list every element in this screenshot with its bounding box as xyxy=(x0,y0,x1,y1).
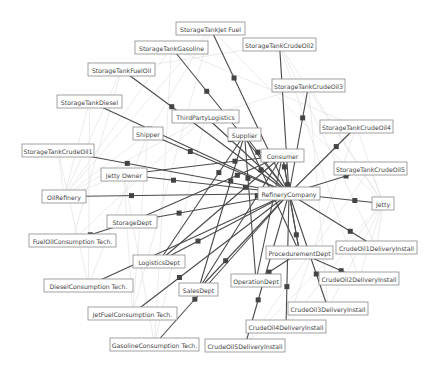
node-label: LogisticsDept xyxy=(138,259,180,267)
edge-line xyxy=(89,194,290,286)
background-edge-jetty-crude-oil3-delivery-install xyxy=(328,204,383,309)
edge-marker-icon xyxy=(352,198,357,203)
edge-marker-icon xyxy=(348,229,353,234)
edge-marker-icon xyxy=(177,211,182,216)
node-label: CrudeOil2DeliveryInstall xyxy=(321,276,396,284)
edge-marker-icon xyxy=(129,193,134,198)
background-edge-storage-tank-crude-oil1-diesel-consumption-tech xyxy=(58,151,89,286)
edge-marker-icon xyxy=(255,150,260,155)
node-label: CrudeOil1DeliveryInstall xyxy=(339,245,414,253)
node-label: Consumer xyxy=(267,153,299,160)
edge-marker-icon xyxy=(284,284,289,289)
node-storage-tank-jet-fuel[interactable]: StorageTankJet Fuel xyxy=(176,22,245,35)
edge-marker-icon xyxy=(259,167,264,172)
node-diesel-consumption-tech[interactable]: DieselConsumption Tech. xyxy=(44,279,133,292)
background-edge-storage-tank-gasoline-gasoline-consumption-tech xyxy=(155,48,172,345)
node-jet-fuel-consumption-tech[interactable]: JetFuelConsumption Tech. xyxy=(88,307,177,320)
node-label: ProcedurementDept xyxy=(268,250,331,258)
edge-marker-icon xyxy=(235,173,240,178)
node-oil-refinery[interactable]: OilRefinery xyxy=(42,190,86,203)
node-logistics-dept[interactable]: LogisticsDept xyxy=(133,255,185,268)
node-label: StorageTankJet Fuel xyxy=(180,26,241,34)
node-consumer[interactable]: Consumer xyxy=(261,149,304,162)
edge-marker-icon xyxy=(196,239,201,244)
node-label: ThirdPartyLogistics xyxy=(175,114,234,122)
node-crude-oil1-delivery-install[interactable]: CrudeOil1DeliveryInstall xyxy=(336,241,417,254)
node-storage-tank-crude-oil2[interactable]: StorageTankCrudeOil2 xyxy=(243,38,316,51)
node-third-party-logistics[interactable]: ThirdPartyLogistics xyxy=(172,110,239,123)
node-label: Jetty xyxy=(375,201,390,209)
node-crude-oil3-delivery-install[interactable]: CrudeOil3DeliveryInstall xyxy=(288,302,368,315)
node-label: OperationDept xyxy=(233,278,279,286)
network-diagram: RefineryCompanyConsumerSupplierThirdPart… xyxy=(0,0,434,372)
edge-marker-icon xyxy=(171,178,176,183)
edge-marker-icon xyxy=(245,176,250,181)
edge-marker-icon xyxy=(125,161,130,166)
node-label: FuelOilConsumption Tech. xyxy=(33,238,113,246)
edge-diesel-consumption-tech-refinery-company xyxy=(89,194,290,286)
edge-marker-icon xyxy=(243,185,248,190)
node-label: Shipper xyxy=(136,131,160,139)
edge-marker-icon xyxy=(256,297,261,302)
node-sales-dept[interactable]: SalesDept xyxy=(179,283,218,296)
node-crude-oil5-delivery-install[interactable]: CrudeOil5DeliveryInstall xyxy=(205,339,285,352)
node-label: StorageTankGasoline xyxy=(139,45,204,53)
node-label: JetFuelConsumption Tech. xyxy=(92,311,173,319)
edge-marker-icon xyxy=(188,149,193,154)
edge-supplier-refinery-company xyxy=(245,135,290,194)
node-supplier[interactable]: Supplier xyxy=(228,128,261,141)
node-storage-tank-crude-oil4[interactable]: StorageTankCrudeOil4 xyxy=(320,120,393,133)
node-label: StorageTankCrudeOil5 xyxy=(336,166,405,174)
node-label: CrudeOil3DeliveryInstall xyxy=(290,306,365,314)
node-storage-tank-crude-oil5[interactable]: StorageTankCrudeOil5 xyxy=(334,162,407,175)
edge-marker-icon xyxy=(232,159,237,164)
node-label: CrudeOil4DeliveryInstall xyxy=(248,324,323,332)
edge-storage-tank-crude-oil2-refinery-company xyxy=(280,45,290,194)
node-label: StorageDept xyxy=(112,219,152,227)
background-edge-jetty-storage-tank-crude-oil3 xyxy=(309,86,384,204)
node-shipper[interactable]: Shipper xyxy=(133,127,163,140)
node-label: Jetty Owner xyxy=(105,172,143,180)
edge-marker-icon xyxy=(204,89,209,94)
node-crude-oil4-delivery-install[interactable]: CrudeOil4DeliveryInstall xyxy=(246,320,326,333)
node-label: StorageTankCrudeOil1 xyxy=(23,148,92,156)
node-refinery-company[interactable]: RefineryCompany xyxy=(258,187,320,200)
edge-marker-icon xyxy=(334,144,339,149)
node-jetty-owner[interactable]: Jetty Owner xyxy=(101,168,147,181)
edge-marker-icon xyxy=(177,275,182,280)
node-fuel-oil-consumption-tech[interactable]: FuelOilConsumption Tech. xyxy=(29,234,116,247)
edge-marker-icon xyxy=(216,170,221,175)
node-label: Supplier xyxy=(232,132,258,140)
node-storage-tank-crude-oil1[interactable]: StorageTankCrudeOil1 xyxy=(22,144,94,157)
node-label: StorageTankCrudeOil2 xyxy=(245,42,314,50)
node-label: DieselConsumption Tech. xyxy=(50,283,128,291)
node-gasoline-consumption-tech[interactable]: GasolineConsumption Tech. xyxy=(110,338,199,351)
edge-consumer-procedurement-dept xyxy=(283,156,300,253)
edge-line xyxy=(245,135,290,194)
edge-marker-icon xyxy=(285,182,290,187)
node-label: OilRefinery xyxy=(47,194,81,202)
node-jetty[interactable]: Jetty xyxy=(372,197,394,210)
edge-line xyxy=(283,156,300,253)
node-label: StorageTankCrudeOil4 xyxy=(322,124,391,132)
node-storage-tank-crude-oil3[interactable]: StorageTankCrudeOil3 xyxy=(272,79,345,92)
node-storage-dept[interactable]: StorageDept xyxy=(107,215,157,228)
background-edge-storage-tank-diesel-diesel-consumption-tech xyxy=(89,102,90,286)
edge-marker-icon xyxy=(192,297,197,302)
node-operation-dept[interactable]: OperationDept xyxy=(231,274,281,287)
node-label: StorageTankFuelOil xyxy=(92,67,152,75)
edge-marker-icon xyxy=(300,115,305,120)
edge-consumer-sales-dept xyxy=(199,156,283,290)
node-label: StorageTankCrudeOil3 xyxy=(274,83,343,91)
node-label: StorageTankDiesel xyxy=(61,99,119,107)
edge-line xyxy=(199,156,283,290)
node-label: SalesDept xyxy=(183,287,215,295)
node-label: CrudeOil5DeliveryInstall xyxy=(207,343,282,351)
edge-line xyxy=(280,45,290,194)
node-procedurement-dept[interactable]: ProcedurementDept xyxy=(266,246,333,259)
node-storage-tank-diesel[interactable]: StorageTankDiesel xyxy=(57,95,122,108)
node-label: RefineryCompany xyxy=(261,191,316,199)
node-storage-tank-fuel-oil[interactable]: StorageTankFuelOil xyxy=(88,63,155,76)
node-crude-oil2-delivery-install[interactable]: CrudeOil2DeliveryInstall xyxy=(319,272,399,285)
node-storage-tank-gasoline[interactable]: StorageTankGasoline xyxy=(135,41,208,54)
